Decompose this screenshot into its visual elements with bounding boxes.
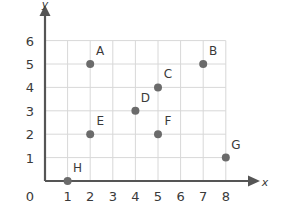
origin-label: 0 [26,189,34,204]
x-tick-label: 1 [63,189,71,204]
data-point-label: H [73,161,82,175]
scatter-plot-svg: 12345678 123456 0 xy ABCDEFGH [0,0,285,218]
x-tick-label: 8 [222,189,230,204]
x-tick-label: 6 [176,189,184,204]
data-point-label: D [141,91,150,105]
x-axis-arrowhead [248,176,260,187]
y-tick-label: 2 [26,127,34,142]
coordinate-plane: 12345678 123456 0 xy ABCDEFGH [0,0,285,218]
data-point [222,154,230,162]
data-point-label: F [165,114,172,128]
x-tick-label: 2 [86,189,94,204]
data-point-label: A [96,44,105,58]
data-point [154,130,162,138]
data-point [131,107,139,115]
data-point-label: E [96,114,104,128]
x-tick-label: 5 [154,189,162,204]
y-axis-tick-labels: 123456 [26,34,34,166]
y-tick-label: 3 [26,104,34,119]
y-tick-label: 5 [26,57,34,72]
x-tick-label: 4 [131,189,139,204]
origin-tick-label: 0 [26,189,34,204]
data-point-label: C [164,67,172,81]
x-axis-tick-labels: 12345678 [63,189,229,204]
data-point [199,60,207,68]
data-point-label: B [209,44,217,58]
data-point-label: G [231,138,240,152]
x-tick-label: 7 [199,189,207,204]
y-tick-label: 4 [26,80,34,95]
data-point [154,83,162,91]
y-axis-name: y [41,0,49,11]
data-point [86,130,94,138]
y-tick-label: 1 [26,151,34,166]
data-points [64,60,230,185]
data-point [86,60,94,68]
x-axis-name: x [261,176,269,189]
data-point [64,177,72,185]
x-tick-label: 3 [109,189,117,204]
y-tick-label: 6 [26,34,34,49]
